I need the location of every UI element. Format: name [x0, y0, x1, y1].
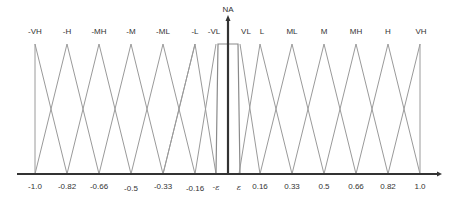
tick-label: -0.16: [186, 184, 204, 193]
y-axis-arrow-icon: [226, 15, 231, 21]
set-label-nm: -M: [126, 27, 135, 36]
set-label-ml: ML: [286, 27, 297, 36]
tick-label: 0.66: [348, 182, 364, 191]
set-m-shape: [292, 44, 356, 174]
y-axis-label: NA: [222, 5, 233, 14]
tick-label: 0.5: [318, 182, 329, 191]
tick-label: -0.5: [124, 184, 138, 193]
tick-label-epsilon: ε: [237, 183, 241, 192]
tick-label-neg-epsilon: -ε: [213, 183, 220, 192]
tick-label: -1.0: [28, 182, 42, 191]
set-h-shape: [356, 44, 420, 174]
set-label-vl: VL: [241, 27, 251, 36]
set-nh-shape: [35, 44, 99, 174]
tick-label: 1.0: [414, 182, 425, 191]
set-nm-shape: [99, 44, 163, 174]
set-label-m: M: [321, 27, 328, 36]
set-label-l: L: [260, 27, 264, 36]
set-label-mh: MH: [350, 27, 362, 36]
set-label-nl: -L: [191, 27, 198, 36]
set-label-h: H: [385, 27, 391, 36]
set-l-shape: [239, 44, 292, 174]
set-label-nml: -ML: [156, 27, 170, 36]
set-ml-shape: [260, 44, 324, 174]
tick-label: 0.82: [380, 182, 396, 191]
set-mh-shape: [324, 44, 388, 174]
set-label-nh: -H: [63, 27, 71, 36]
set-label-nvl: -VL: [208, 27, 220, 36]
tick-label: 0.33: [284, 182, 300, 191]
tick-label: -0.82: [58, 182, 76, 191]
set-nl-shape: [163, 44, 216, 174]
x-axis-arrow-icon: [437, 172, 442, 177]
set-label-nmh: -MH: [91, 27, 106, 36]
set-nmh-shape: [67, 44, 131, 174]
tick-label: 0.16: [252, 182, 268, 191]
set-nml-shape: [131, 44, 195, 174]
tick-label: -0.66: [90, 182, 108, 191]
set-label-vh: VH: [415, 27, 426, 36]
set-label-nvh: -VH: [28, 27, 42, 36]
tick-label: -0.33: [154, 182, 172, 191]
membership-function-diagram: NA -VH -H -MH -M -ML -L -VL VL L ML M MH…: [0, 0, 455, 204]
